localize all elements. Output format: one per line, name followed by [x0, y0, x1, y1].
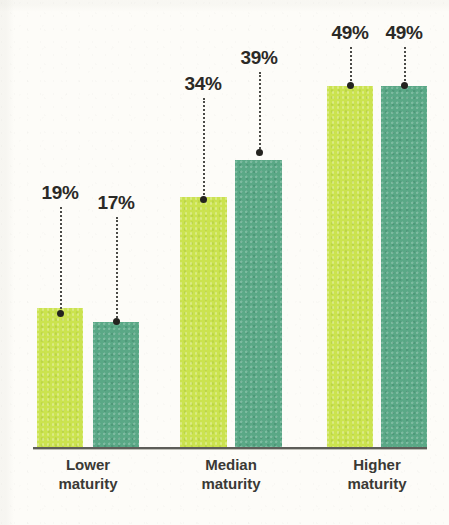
leader-line-median-series1: [203, 98, 205, 199]
value-label-lower-series2: 17%: [97, 192, 134, 214]
marker-dot-lower-series1: [57, 310, 64, 317]
leader-line-lower-series1: [60, 207, 62, 313]
category-label-median-line2: maturity: [201, 474, 260, 493]
marker-dot-higher-series2: [401, 82, 408, 89]
bar-higher-series1[interactable]: [327, 86, 373, 448]
bar-higher-series2[interactable]: [381, 86, 427, 448]
bar-lower-series2[interactable]: [93, 322, 139, 448]
category-label-median-line1: Median: [205, 456, 257, 473]
bar-lower-series1[interactable]: [37, 308, 83, 448]
marker-dot-lower-series2: [113, 318, 120, 325]
marker-dot-higher-series1: [347, 82, 354, 89]
plot-area: 19% 17% 34% 39% 49% 49% Lower maturity M…: [0, 0, 449, 525]
value-label-median-series2: 39%: [240, 47, 277, 69]
value-label-median-series1: 34%: [184, 73, 221, 95]
leader-line-higher-series2: [404, 47, 406, 85]
marker-dot-median-series1: [200, 196, 207, 203]
value-label-higher-series1: 49%: [331, 22, 368, 44]
category-label-median: Median maturity: [201, 455, 260, 493]
value-label-lower-series1: 19%: [41, 182, 78, 204]
leader-line-lower-series2: [116, 217, 118, 321]
category-label-lower-line2: maturity: [58, 474, 117, 493]
bar-median-series1[interactable]: [180, 197, 227, 448]
category-label-higher-line2: maturity: [347, 474, 406, 493]
category-label-higher: Higher maturity: [347, 455, 406, 493]
marker-dot-median-series2: [256, 149, 263, 156]
x-axis-line: [33, 447, 427, 449]
category-label-lower-line1: Lower: [66, 456, 110, 473]
leader-line-higher-series1: [350, 47, 352, 85]
bar-chart: 19% 17% 34% 39% 49% 49% Lower maturity M…: [0, 0, 449, 525]
leader-line-median-series2: [259, 72, 261, 152]
value-label-higher-series2: 49%: [385, 22, 422, 44]
category-label-higher-line1: Higher: [353, 456, 401, 473]
bar-median-series2[interactable]: [235, 160, 282, 448]
category-label-lower: Lower maturity: [58, 455, 117, 493]
